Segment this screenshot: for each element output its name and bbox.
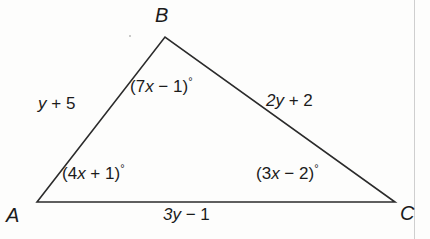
angle-b-variable: x	[145, 77, 154, 96]
angle-label-a: (4x + 1)°	[62, 163, 125, 182]
side-label-bc: 2y + 2	[266, 92, 313, 109]
angle-c-open: (3	[256, 164, 271, 183]
side-bc-constant: 2	[303, 91, 312, 110]
side-bc-variable: 2y	[266, 91, 284, 110]
side-ac-operator: −	[181, 205, 200, 224]
vertex-label-a: A	[6, 205, 19, 225]
vertex-label-b: B	[155, 5, 168, 25]
degree-icon: °	[120, 162, 124, 174]
angle-a-rest: + 1)	[86, 164, 121, 183]
degree-icon: °	[188, 75, 192, 87]
angle-b-rest: − 1)	[154, 77, 189, 96]
side-label-ac: 3y − 1	[163, 206, 210, 223]
side-ab-variable: y	[38, 94, 47, 113]
angle-a-open: (4	[62, 164, 77, 183]
angle-label-b: (7x − 1)°	[130, 76, 193, 95]
angle-b-open: (7	[130, 77, 145, 96]
angle-label-c: (3x − 2)°	[256, 163, 319, 182]
side-ac-constant: 1	[200, 205, 209, 224]
side-ab-constant: 5	[66, 94, 75, 113]
side-label-ab: y + 5	[38, 95, 75, 112]
triangle-canvas	[0, 0, 430, 239]
angle-a-variable: x	[77, 164, 86, 183]
triangle-figure: A B C y + 5 2y + 2 3y − 1 (7x − 1)° (4x …	[0, 0, 430, 239]
side-ac-variable: 3y	[163, 205, 181, 224]
degree-icon: °	[314, 162, 318, 174]
side-ab-operator: +	[47, 94, 66, 113]
angle-c-variable: x	[271, 164, 280, 183]
scan-speck	[129, 35, 131, 37]
angle-c-rest: − 2)	[280, 164, 315, 183]
side-bc-operator: +	[284, 91, 303, 110]
vertex-label-c: C	[400, 203, 414, 223]
